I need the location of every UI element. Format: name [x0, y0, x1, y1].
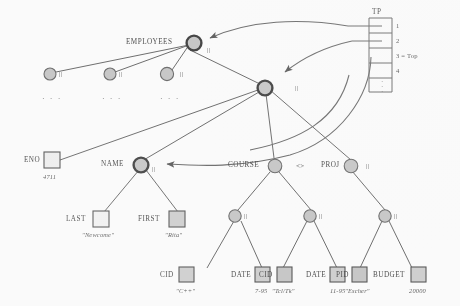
mark-employee-record: || — [295, 84, 298, 92]
label-budget: BUDGET — [373, 271, 405, 279]
box-last — [93, 211, 109, 227]
box-first — [169, 211, 185, 227]
label-course: COURSE — [228, 161, 259, 169]
mark-name: || — [152, 165, 155, 173]
node-employees — [187, 36, 202, 51]
mark-course: <> — [296, 162, 304, 170]
value-budget: 20000 — [409, 287, 426, 294]
value-cid-1: "C++" — [176, 287, 195, 294]
label-date-2: DATE — [306, 271, 326, 279]
label-cid-1: CID — [160, 271, 174, 279]
value-eno: 4711 — [43, 173, 56, 180]
box-pid — [352, 267, 367, 282]
tp-row-label-1: 1 — [396, 22, 400, 29]
node-employee-sibling-1 — [44, 68, 56, 80]
diagram-canvas — [0, 0, 460, 306]
node-course-entry-2 — [304, 210, 316, 222]
label-date-1: DATE — [231, 271, 251, 279]
tp-table — [348, 18, 392, 92]
value-last: "Newcome" — [82, 231, 114, 238]
box-budget — [411, 267, 426, 282]
mark-course-entry-1: || — [244, 212, 247, 220]
label-first: FIRST — [138, 215, 160, 223]
node-proj — [344, 159, 358, 173]
dots-employee-sibling-1: · · · — [42, 94, 62, 103]
dots-employee-sibling-2: · · · — [102, 94, 122, 103]
tp-row-label-3: 3 = Top — [396, 52, 418, 59]
label-last: LAST — [66, 215, 86, 223]
mark-employee-sibling-1: || — [59, 70, 62, 78]
mark-proj-entry: || — [394, 212, 397, 220]
mark-employees: || — [207, 46, 210, 54]
node-employee-sibling-3 — [160, 67, 173, 80]
value-first: "Rita" — [165, 231, 182, 238]
value-cid-2: "Tcl/Tk" — [272, 287, 295, 294]
node-employee-record — [258, 81, 273, 96]
label-eno: ENO — [24, 156, 40, 164]
box-cid-1 — [179, 267, 194, 282]
node-proj-entry — [379, 210, 391, 222]
dots-employee-sibling-3: · · · — [160, 94, 180, 103]
tp-table-header: TP — [372, 8, 382, 16]
value-pid: "Escher" — [345, 287, 370, 294]
value-date-1: 7-95 — [255, 287, 268, 294]
value-date-2: 11-95 — [330, 287, 345, 294]
box-eno — [44, 152, 60, 168]
mark-employee-sibling-2: || — [119, 70, 122, 78]
label-name: NAME — [101, 160, 124, 168]
label-pid: PID — [336, 271, 349, 279]
tp-row-label-4: 4 — [396, 67, 400, 74]
node-course — [268, 159, 282, 173]
label-proj: PROJ — [321, 161, 340, 169]
node-employee-sibling-2 — [104, 68, 116, 80]
node-name — [134, 158, 149, 173]
label-cid-2: CID — [259, 271, 273, 279]
label-employees: EMPLOYEES — [126, 38, 172, 46]
box-cid-2 — [277, 267, 292, 282]
mark-course-entry-2: || — [319, 212, 322, 220]
mark-employee-sibling-3: || — [180, 70, 183, 78]
mark-proj: || — [366, 162, 369, 170]
tp-continuation-dots: ··· — [381, 80, 384, 95]
node-course-entry-1 — [229, 210, 241, 222]
tp-row-label-2: 2 — [396, 37, 400, 44]
